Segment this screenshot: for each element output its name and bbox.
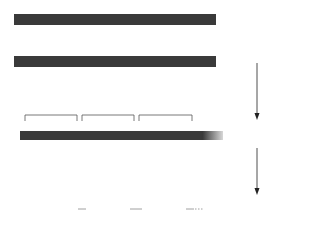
mrna-strand bbox=[20, 131, 223, 140]
codon-brackets bbox=[25, 115, 192, 121]
translation-arrow bbox=[255, 148, 260, 195]
transcription-arrow bbox=[255, 63, 260, 120]
mrna-backbone bbox=[20, 131, 223, 140]
dna-bottom-backbone bbox=[14, 56, 216, 67]
dna-top-backbone bbox=[14, 14, 216, 25]
gene-expression-diagram bbox=[0, 0, 329, 233]
dna-double-strand bbox=[14, 14, 216, 67]
